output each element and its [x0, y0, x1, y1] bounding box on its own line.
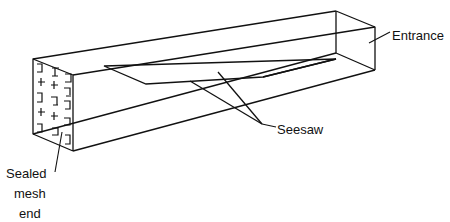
seesaw-plate — [104, 59, 336, 124]
leader-lines — [55, 32, 390, 172]
label-seesaw: Seesaw — [277, 122, 323, 138]
mesh-icon — [37, 64, 71, 144]
trap-diagram — [0, 0, 450, 222]
label-entrance: Entrance — [392, 28, 444, 44]
label-mesh: mesh — [14, 186, 46, 202]
label-sealed: Sealed — [6, 166, 46, 182]
label-end: end — [19, 206, 41, 222]
